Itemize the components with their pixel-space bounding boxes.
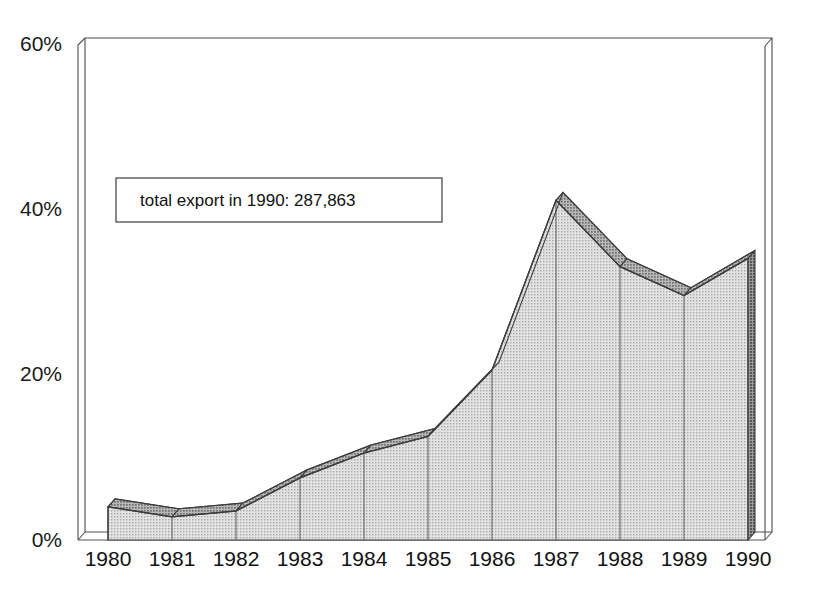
x-tick-label-1983: 1983 <box>277 547 324 570</box>
annotation-callout: total export in 1990: 287,863 <box>116 178 442 222</box>
x-tick-label-1985: 1985 <box>405 547 452 570</box>
y-tick-label-40: 40% <box>20 197 62 220</box>
area-chart-3d: 60% 40% 20% 0% total export in 1990: 287… <box>0 0 820 594</box>
x-tick-label-1990: 1990 <box>725 547 772 570</box>
x-tick-label-1982: 1982 <box>213 547 260 570</box>
x-tick-label-1987: 1987 <box>533 547 580 570</box>
x-tick-label-1981: 1981 <box>149 547 196 570</box>
x-tick-label-1984: 1984 <box>341 547 388 570</box>
y-tick-label-0: 0% <box>32 528 62 551</box>
x-tick-label-1988: 1988 <box>597 547 644 570</box>
x-tick-label-1986: 1986 <box>469 547 516 570</box>
chart-container: 60% 40% 20% 0% total export in 1990: 287… <box>0 0 820 594</box>
x-axis-tick-labels: 1980 1981 1982 1983 1984 1985 1986 1987 … <box>85 547 772 570</box>
annotation-label: total export in 1990: 287,863 <box>140 191 356 210</box>
y-tick-label-60: 60% <box>20 32 62 55</box>
x-tick-label-1989: 1989 <box>661 547 708 570</box>
series-right-end-cap <box>748 250 755 540</box>
x-tick-label-1980: 1980 <box>85 547 132 570</box>
y-tick-label-20: 20% <box>20 362 62 385</box>
